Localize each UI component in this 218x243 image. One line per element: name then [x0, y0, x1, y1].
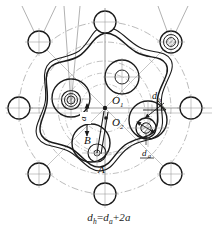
figure-canvas: O 1 O 2 A B a d h d a [0, 0, 218, 243]
label-pin-diameter: d [142, 148, 147, 158]
label-point-b: B [84, 134, 91, 146]
label-point-a: A [97, 163, 105, 175]
label-eccentricity: a [78, 116, 88, 121]
caption-term: 2a [119, 211, 130, 223]
label-center-o1: O [112, 94, 120, 106]
label-center-o1-subscript: 1 [120, 101, 124, 109]
figure-caption-formula: dh=da+2a [0, 211, 218, 226]
label-center-o2-subscript: 2 [120, 123, 124, 131]
cycloidal-gear-diagram: O 1 O 2 A B a d h d a [0, 0, 218, 243]
label-pin-pitch-diameter-subscript: h [158, 96, 161, 103]
label-pin-diameter-subscript: a [148, 153, 151, 159]
center-o2-marker [104, 116, 108, 120]
center-o1-marker [103, 106, 107, 110]
label-center-o2: O [112, 116, 120, 128]
